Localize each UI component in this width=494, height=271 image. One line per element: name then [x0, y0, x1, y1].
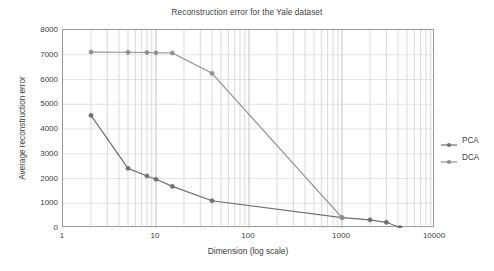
data-series-layer	[89, 50, 402, 228]
x-axis-ticks: 110100100010000	[62, 231, 434, 245]
plot-area	[62, 29, 434, 227]
data-point-pca-4	[170, 184, 174, 188]
legend-item-pca[interactable]: PCA	[440, 132, 492, 149]
y-tick-label: 3000	[12, 148, 58, 157]
y-tick-label: 6000	[12, 74, 58, 83]
data-point-dca-4	[170, 51, 174, 55]
legend-marker-icon	[440, 136, 458, 146]
y-tick-label: 2000	[12, 173, 58, 182]
data-point-pca-7	[368, 218, 372, 222]
data-point-pca-1	[126, 166, 130, 170]
y-axis-ticks: 010002000300040005000600070008000	[10, 29, 58, 227]
legend-marker-icon	[440, 153, 458, 163]
legend-label: DCA	[462, 153, 479, 162]
y-tick-label: 4000	[12, 124, 58, 133]
chart-figure: Reconstruction error for the Yale datase…	[0, 0, 494, 271]
x-tick-label: 100	[241, 231, 254, 240]
data-point-dca-2	[145, 50, 149, 54]
y-tick-label: 8000	[12, 25, 58, 34]
plot-svg	[63, 30, 435, 228]
data-point-pca-9	[398, 225, 402, 228]
data-point-pca-8	[384, 220, 388, 224]
y-tick-label: 0	[12, 223, 58, 232]
data-point-pca-2	[145, 174, 149, 178]
x-tick-label: 1000	[332, 231, 350, 240]
data-point-pca-3	[154, 177, 158, 181]
y-tick-label: 7000	[12, 49, 58, 58]
x-tick-label: 10	[151, 231, 160, 240]
legend-label: PCA	[462, 136, 479, 145]
series-line-dca	[91, 52, 342, 218]
y-tick-label: 1000	[12, 198, 58, 207]
data-point-pca-5	[210, 199, 214, 203]
data-point-dca-3	[154, 51, 158, 55]
series-line-pca	[91, 115, 400, 227]
chart-title: Reconstruction error for the Yale datase…	[0, 8, 494, 17]
data-point-pca-0	[89, 113, 93, 117]
chart-legend: PCADCA	[440, 132, 492, 166]
data-point-dca-1	[126, 50, 130, 54]
data-point-dca-5	[210, 71, 214, 75]
y-tick-label: 5000	[12, 99, 58, 108]
x-axis-label: Dimension (log scale)	[62, 246, 434, 256]
x-tick-label: 1	[60, 231, 64, 240]
x-tick-label: 10000	[423, 231, 445, 240]
data-point-dca-6	[340, 216, 344, 220]
legend-item-dca[interactable]: DCA	[440, 149, 492, 166]
data-point-dca-0	[89, 50, 93, 54]
